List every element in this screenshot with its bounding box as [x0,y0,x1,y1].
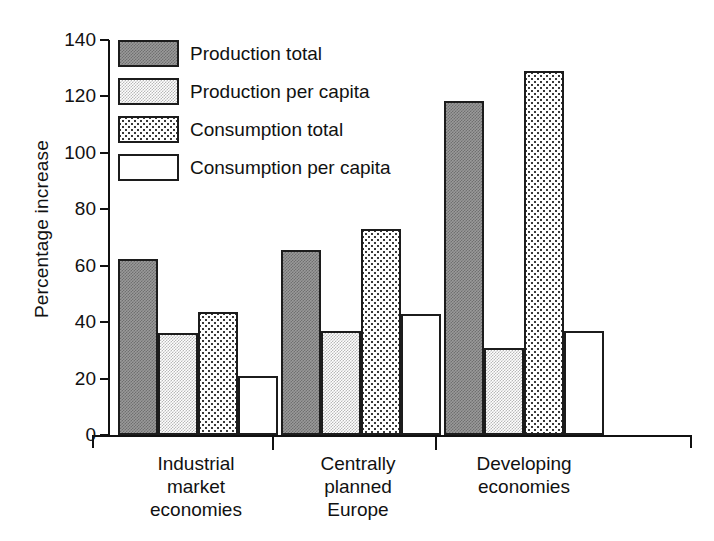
y-tick-80 [100,208,109,210]
y-tick-label-100: 100 [38,143,96,162]
legend-label-3: Consumption per capita [190,156,391,179]
x-axis-line [92,435,692,437]
legend-swatch-icon-0 [118,40,179,67]
y-tick-label-80: 80 [38,199,96,218]
legend-label-1: Production per capita [190,80,370,103]
y-tick-100 [100,152,109,154]
y-tick-label-60: 60 [38,256,96,275]
x-group-label-line: planned [263,475,453,498]
x-group-separator-1 [272,437,274,450]
x-group-label-2: Developingeconomies [429,452,619,498]
bar-1-2 [361,229,401,435]
x-group-label-line: economies [429,475,619,498]
y-tick-label-140: 140 [38,30,96,49]
legend-swatch-icon-3 [118,154,179,181]
bar-2-2 [524,71,564,435]
bar-1-3 [401,314,441,435]
bar-chart-figure: Percentage increase 020406080100120140 I… [0,0,714,541]
y-tick-label-20: 20 [38,369,96,388]
bar-1-1 [321,331,361,435]
bar-0-2 [198,312,238,435]
y-tick-140 [100,39,109,41]
x-group-label-line: Europe [263,498,453,521]
legend-label-2: Consumption total [190,118,343,141]
bar-2-3 [564,331,604,435]
scan-artifact-strip [60,0,390,9]
bar-0-0 [118,259,158,435]
y-tick-20 [100,378,109,380]
x-group-label-line: Developing [429,452,619,475]
x-axis-left-end [92,437,94,448]
bar-2-1 [484,348,524,435]
x-group-label-1: CentrallyplannedEurope [263,452,453,521]
bar-0-3 [238,376,278,435]
y-tick-120 [100,95,109,97]
bar-2-0 [444,101,484,435]
y-tick-label-40: 40 [38,312,96,331]
legend-label-0: Production total [190,42,322,65]
bar-1-0 [281,250,321,435]
y-tick-60 [100,265,109,267]
y-tick-label-0: 0 [38,425,96,444]
x-group-separator-2 [435,437,437,450]
y-tick-label-120: 120 [38,86,96,105]
y-tick-40 [100,321,109,323]
legend-swatch-icon-2 [118,116,179,143]
legend-swatch-icon-1 [118,78,179,105]
x-group-label-line: Centrally [263,452,453,475]
bar-0-1 [158,333,198,435]
x-axis-right-end [690,437,692,448]
